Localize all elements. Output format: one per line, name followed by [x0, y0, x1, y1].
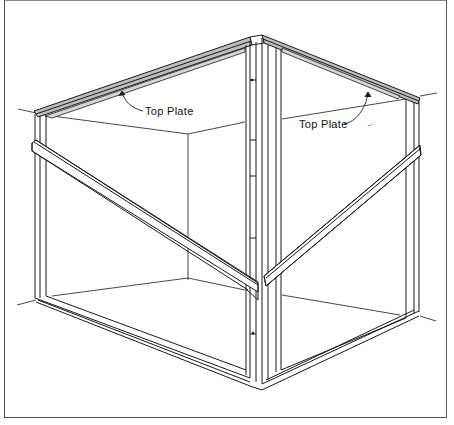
corner-post	[246, 38, 281, 384]
top-plate-left-label: Top Plate	[145, 105, 194, 117]
stray-mark: -·	[368, 120, 374, 129]
bottom-plate-left	[35, 296, 262, 390]
top-plate-right	[262, 35, 420, 104]
brace-left	[32, 140, 258, 300]
bottom-plate-right	[262, 310, 419, 390]
brace-right	[264, 145, 421, 286]
leader-left	[119, 91, 143, 111]
top-plate-right-label: Top Plate	[299, 118, 348, 130]
top-plate-left	[34, 37, 252, 118]
framing-diagram: Top Plate Top Plate -·	[0, 0, 454, 425]
right-end-studs	[406, 100, 419, 318]
